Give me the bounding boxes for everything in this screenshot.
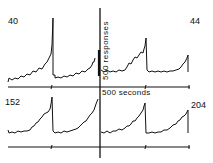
y-scale-label: 500 responses: [101, 21, 110, 80]
record-panel-152: [8, 97, 98, 133]
record-panel-44: [101, 38, 188, 72]
x-scale-label: 500 seconds: [102, 88, 151, 97]
panel-label-44: 44: [190, 16, 200, 26]
panel-label-204: 204: [191, 100, 206, 110]
panel-label-40: 40: [8, 16, 18, 26]
panel-label-152: 152: [5, 97, 20, 107]
record-panel-204: [101, 103, 188, 133]
record-panel-40: [8, 18, 95, 82]
